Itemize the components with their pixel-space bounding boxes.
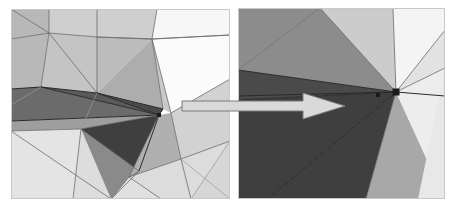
detail-mesh-faces: [238, 8, 445, 199]
vertex-marker-1: [376, 93, 380, 97]
face-tl-d: [41, 33, 97, 93]
figure-root: [0, 0, 461, 212]
overview-mesh-svg: [11, 9, 230, 199]
face-bl-a: [11, 129, 81, 199]
detail-panel[interactable]: [238, 8, 445, 199]
overview-vertex-markers: [157, 113, 161, 117]
overview-panel[interactable]: [11, 9, 230, 199]
detail-mesh-svg: [238, 8, 445, 199]
face-tr-a: [152, 9, 230, 39]
vertex-marker-0: [393, 89, 400, 96]
face-tc-a: [97, 9, 157, 39]
vertex-marker-0: [157, 113, 161, 117]
face-tl-c: [49, 9, 97, 37]
